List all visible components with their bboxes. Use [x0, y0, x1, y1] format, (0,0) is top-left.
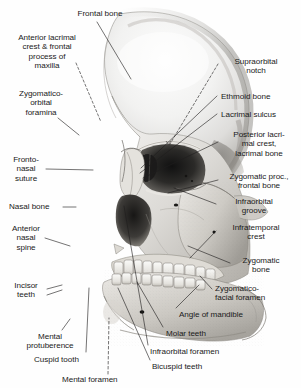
label-nasal-bone: Nasal bone	[9, 202, 65, 211]
label-ethmoid-bone: Ethmoid bone	[221, 92, 297, 101]
label-infraorbital-foramen: Infraorbital foramen	[150, 347, 248, 356]
label-lacrimal-sulcus: Lacrimal sulcus	[221, 110, 301, 119]
skull-anatomy-figure: Frontal bone Anterior lacrimal crest & f…	[0, 0, 301, 388]
label-supraorbital-notch: Supraorbital notch	[221, 57, 291, 76]
label-zygomatic-bone: Zygomatic bone	[232, 256, 290, 275]
label-frontal-bone: Frontal bone	[60, 9, 140, 18]
label-zygomatic-proc-frontal-bone: Zygomatic proc., frontal bone	[219, 172, 299, 191]
label-bicuspid-teeth: Bicuspid teeth	[152, 362, 228, 371]
label-mental-foramen: Mental foramen	[62, 375, 138, 384]
label-infratemporal-crest: Infratemporal crest	[218, 223, 294, 242]
label-mental-protuberence: Mental protuberence	[13, 332, 87, 351]
label-fronto-nasal-suture: Fronto- nasal suture	[5, 155, 47, 183]
label-molar-teeth: Molar teeth	[166, 329, 232, 338]
label-zygomatico-orbital-foramina: Zygomatico- orbital foramina	[6, 89, 76, 117]
label-angle-of-mandible: Angle of mandible	[179, 310, 271, 319]
nasal-aperture	[116, 195, 152, 247]
label-cuspid-tooth: Cuspid tooth	[34, 355, 98, 364]
label-infraorbital-groove: Infraorbital groove	[219, 197, 289, 216]
label-anterior-lacrimal-crest: Anterior lacrimal crest & frontal proces…	[4, 33, 90, 71]
label-posterior-lacrimal-crest: Posterior lacri- mal crest, lacrimal bon…	[220, 130, 298, 158]
label-anterior-nasal-spine: Anterior nasal spine	[5, 224, 47, 252]
label-zygomatico-facial-foramen: Zygomatico- facial foramen	[215, 284, 297, 303]
label-incisor-teeth: Incisor teeth	[6, 281, 46, 300]
